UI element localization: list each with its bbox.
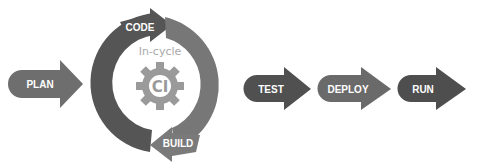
plan-label: PLAN <box>26 79 53 90</box>
deploy-arrow: DEPLOY <box>318 67 392 110</box>
build-label: BUILD <box>163 138 194 149</box>
ci-label: CI <box>152 78 169 96</box>
deploy-label: DEPLOY <box>327 84 368 95</box>
run-arrow: RUN <box>398 67 467 110</box>
test-label: TEST <box>258 84 284 95</box>
plan-arrow: PLAN <box>8 60 83 108</box>
test-arrow: TEST <box>244 67 312 110</box>
gear-icon: CI <box>136 62 184 110</box>
ci-diagram: PLAN CODE BUILD In-cycle CI <box>0 0 481 166</box>
code-label: CODE <box>126 22 155 33</box>
in-cycle-caption: In-cycle <box>139 45 182 58</box>
run-label: RUN <box>412 84 434 95</box>
